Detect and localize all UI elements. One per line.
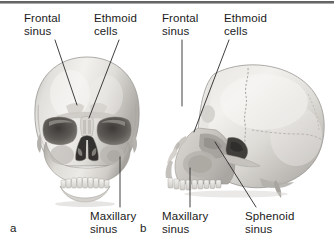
label-sphenoid-sinus-b: Sphenoid sinus — [245, 210, 294, 235]
label-frontal-sinus-b: Frontal sinus — [162, 12, 199, 37]
label-ethmoid-cells-b: Ethmoid cells — [224, 12, 267, 37]
label-maxillary-sinus-b: Maxillary sinus — [162, 210, 208, 235]
label-ethmoid-cells-a: Ethmoid cells — [94, 12, 137, 37]
anatomy-figure: Frontal sinus Ethmoid cells Maxillary si… — [0, 0, 334, 245]
panel-marker-b: b — [140, 222, 146, 234]
lateral-skull-illustration — [156, 56, 332, 208]
label-frontal-sinus-a: Frontal sinus — [24, 12, 61, 37]
label-maxillary-sinus-a: Maxillary sinus — [90, 210, 136, 235]
panel-marker-a: a — [10, 222, 16, 234]
top-divider-rule — [0, 1, 334, 4]
anterior-skull-illustration — [26, 56, 148, 208]
